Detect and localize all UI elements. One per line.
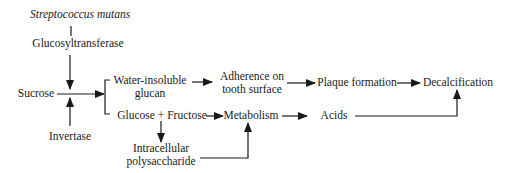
- node-label: Acids: [316, 109, 352, 122]
- node-metabolism: Metabolism: [222, 109, 280, 122]
- node-label-line1: Water-insoluble: [110, 74, 190, 87]
- node-label-line2: glucan: [110, 87, 190, 100]
- node-glucosyltransferase: Glucosyltransferase: [28, 37, 128, 50]
- node-label: Invertase: [46, 130, 94, 143]
- node-streptococcus-mutans: Streptococcus mutans: [30, 8, 130, 21]
- node-invertase: Invertase: [46, 130, 94, 143]
- edge-acids-to-decalcification: [355, 90, 457, 116]
- node-glucose-fructose: Glucose + Fructose: [116, 109, 208, 122]
- node-label: Streptococcus mutans: [30, 8, 130, 21]
- node-adherence-tooth-surface: Adherence on tooth surface: [214, 70, 290, 96]
- node-label-line2: tooth surface: [214, 83, 290, 96]
- node-label: Decalcification: [420, 76, 496, 89]
- node-sucrose: Sucrose: [14, 87, 58, 100]
- node-water-insoluble-glucan: Water-insoluble glucan: [110, 74, 190, 100]
- node-label: Sucrose: [14, 87, 58, 100]
- flow-diagram: Streptococcus mutans Glucosyltransferase…: [0, 0, 511, 173]
- node-label-line2: polysaccharide: [120, 155, 202, 168]
- node-label: Plaque formation: [315, 76, 399, 89]
- node-plaque-formation: Plaque formation: [315, 76, 399, 89]
- node-label: Glucose + Fructose: [116, 109, 208, 122]
- node-label: Glucosyltransferase: [28, 37, 128, 50]
- node-decalcification: Decalcification: [420, 76, 496, 89]
- node-intracellular-polysaccharide: Intracellular polysaccharide: [120, 142, 202, 168]
- node-label-line1: Intracellular: [120, 142, 202, 155]
- node-label-line1: Adherence on: [214, 70, 290, 83]
- node-acids: Acids: [316, 109, 352, 122]
- edge-intracellular-to-metabolism: [200, 123, 248, 158]
- node-label: Metabolism: [222, 109, 280, 122]
